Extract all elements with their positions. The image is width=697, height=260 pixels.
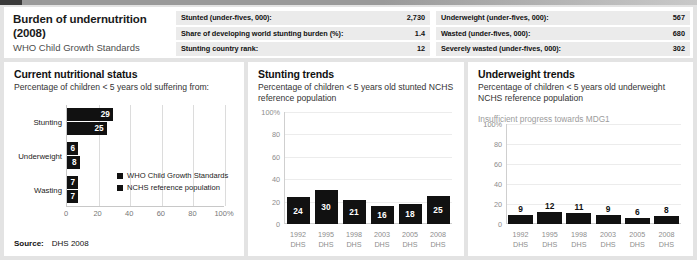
bar: 6 [67, 142, 78, 155]
bar: 29 [67, 108, 113, 121]
bar: 8 [67, 156, 80, 169]
charts-row: Current nutritional status Percentage of… [4, 62, 693, 256]
undernutrition-profile-page: Burden of undernutrition (2008) WHO Chil… [0, 0, 697, 260]
bar-value-label: 29 [101, 110, 113, 119]
top-bar [0, 0, 697, 5]
panel-stunting-title: Stunting trends [258, 68, 334, 80]
current-status-x-axis [66, 206, 224, 207]
x-tick-label: 2008DHS [646, 230, 686, 250]
stat-label: Severely wasted (under-fives, 000): [441, 44, 673, 53]
y-tick-label: 0 [476, 220, 502, 229]
y-tick-label: 80 [476, 140, 502, 149]
y-tick-label: 20 [476, 200, 502, 209]
y-tick-label: 60 [476, 160, 502, 169]
stat-label: Underweight (under-fives, 000): [441, 13, 673, 22]
summary-stats-right-column: Underweight (under-fives, 000):567Wasted… [436, 11, 690, 56]
page-title: Burden of undernutrition (2008) [13, 12, 173, 40]
stat-value: 2,730 [407, 13, 425, 22]
bar-value-label: 6 [70, 144, 78, 153]
stat-label: Share of developing world stunting burde… [181, 29, 415, 38]
bar: 7 [67, 176, 78, 189]
y-tick-label: 100% [254, 108, 280, 117]
panel-stunting-trends: Stunting trends Percentage of children <… [248, 62, 464, 256]
gridline [285, 112, 452, 113]
panel-underweight-trends: Underweight trends Percentage of childre… [468, 62, 693, 256]
page-subtitle: WHO Child Growth Standards [13, 41, 173, 54]
bar-value-label: 25 [418, 205, 458, 215]
stat-value: 302 [673, 44, 685, 53]
x-tick-year: 2008 [646, 230, 686, 240]
legend-swatch-icon [117, 173, 123, 179]
y-tick-label: 40 [254, 175, 280, 184]
panel-current-title: Current nutritional status [14, 68, 137, 80]
x-tick-year: 2008 [418, 230, 458, 240]
bar-value-label: 8 [646, 205, 686, 215]
stat-row: Stunting country rank:12 [176, 42, 430, 56]
gridline [507, 144, 681, 145]
x-tick-survey: DHS [418, 240, 458, 250]
stat-row: Share of developing world stunting burde… [176, 27, 430, 41]
stat-label: Wasted (under-fives, 000): [441, 29, 673, 38]
top-bar-tab [0, 0, 22, 5]
stat-row: Stunted (under-fives, 000):2,730 [176, 11, 430, 25]
y-tick-label: 40 [476, 180, 502, 189]
source-label: Source: [14, 239, 44, 248]
gridline [507, 184, 681, 185]
header-title-block: Burden of undernutrition (2008) WHO Chil… [13, 12, 173, 54]
category-label: Wasting [8, 186, 62, 195]
y-tick-label: 20 [254, 197, 280, 206]
bar-value-label: 7 [70, 178, 78, 187]
y-tick-label: 100% [476, 120, 502, 129]
bar: 25 [67, 122, 107, 135]
panel-current-subtitle: Percentage of children < 5 years old suf… [14, 82, 224, 93]
gridline [507, 124, 681, 125]
legend-swatch-icon [117, 185, 123, 191]
stat-label: Stunting country rank: [181, 44, 417, 53]
gridline [285, 157, 452, 158]
bar: 7 [67, 190, 78, 203]
y-tick-label: 60 [254, 152, 280, 161]
stat-value: 1.4 [415, 29, 425, 38]
legend-label: WHO Child Growth Standards [127, 171, 228, 180]
bar [566, 213, 591, 224]
header-card: Burden of undernutrition (2008) WHO Chil… [4, 7, 693, 58]
x-tick-label: 60 [157, 209, 165, 218]
y-tick-label: 0 [254, 220, 280, 229]
legend-item: NCHS reference population [117, 183, 228, 192]
panel-underweight-title: Underweight trends [478, 68, 575, 80]
bar [537, 212, 562, 224]
x-tick-label: 2008DHS [418, 230, 458, 250]
summary-stats: Stunted (under-fives, 000):2,730Share of… [176, 11, 690, 56]
stat-value: 567 [673, 13, 685, 22]
stat-row: Underweight (under-fives, 000):567 [436, 11, 690, 25]
bar-value-label: 7 [70, 192, 78, 201]
stat-label: Stunted (under-fives, 000): [181, 13, 407, 22]
stat-value: 12 [417, 44, 425, 53]
stat-row: Severely wasted (under-fives, 000):302 [436, 42, 690, 56]
y-tick-label: 80 [254, 130, 280, 139]
bar-value-label: 25 [94, 124, 106, 133]
stat-value: 680 [673, 29, 685, 38]
summary-stats-left-column: Stunted (under-fives, 000):2,730Share of… [176, 11, 430, 56]
source-value: DHS 2008 [52, 239, 89, 248]
panel-underweight-subtitle: Percentage of children < 5 years old und… [478, 82, 688, 103]
x-tick-label: 40 [125, 209, 133, 218]
x-tick-label: 20 [93, 209, 101, 218]
x-tick-label: 80 [188, 209, 196, 218]
gridline [507, 164, 681, 165]
bar-value-label: 8 [72, 158, 80, 167]
x-tick-survey: DHS [646, 240, 686, 250]
source-line: Source:DHS 2008 [14, 239, 89, 248]
category-label: Stunting [8, 118, 62, 127]
legend-item: WHO Child Growth Standards [117, 171, 228, 180]
bar [654, 216, 679, 224]
category-label: Underweight [8, 152, 62, 161]
underweight-trends-chart: 100%80604020091992DHS121995DHS111998DHS9… [468, 124, 693, 254]
x-tick-label: 0 [64, 209, 68, 218]
x-tick-label: 100% [214, 209, 233, 218]
bar [508, 215, 533, 224]
legend-label: NCHS reference population [127, 183, 220, 192]
bar [625, 218, 650, 224]
gridline [285, 134, 452, 135]
current-status-legend: WHO Child Growth StandardsNCHS reference… [117, 171, 228, 195]
